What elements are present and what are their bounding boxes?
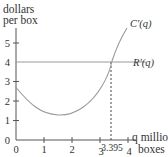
svg-text:0: 0: [5, 135, 10, 146]
svg-text:3.395: 3.395: [101, 143, 123, 153]
y-axis-title-line2: per box: [3, 14, 38, 27]
x-axis-title-line2: boxes: [138, 143, 165, 155]
marginal-revenue-label: R′(q): [132, 57, 154, 69]
svg-text:4: 4: [5, 57, 11, 68]
marginal-cost-curve: [16, 28, 127, 115]
x-tick-labels: 0 1 2 3 3.395 4: [13, 143, 132, 157]
svg-text:1: 1: [5, 115, 10, 126]
svg-text:1: 1: [41, 144, 46, 155]
svg-text:4: 4: [126, 146, 132, 157]
marginal-cost-revenue-chart: dollars per box 0 1 2 3 4 5 0 1 2 3 3.39…: [0, 0, 168, 157]
y-tick-labels: 0 1 2 3 4 5: [5, 38, 11, 146]
svg-text:5: 5: [5, 38, 10, 49]
svg-text:2: 2: [5, 96, 10, 107]
marginal-cost-label: C′(q): [130, 18, 152, 30]
svg-text:2: 2: [69, 144, 74, 155]
svg-text:0: 0: [13, 144, 18, 155]
svg-text:3: 3: [5, 76, 10, 87]
